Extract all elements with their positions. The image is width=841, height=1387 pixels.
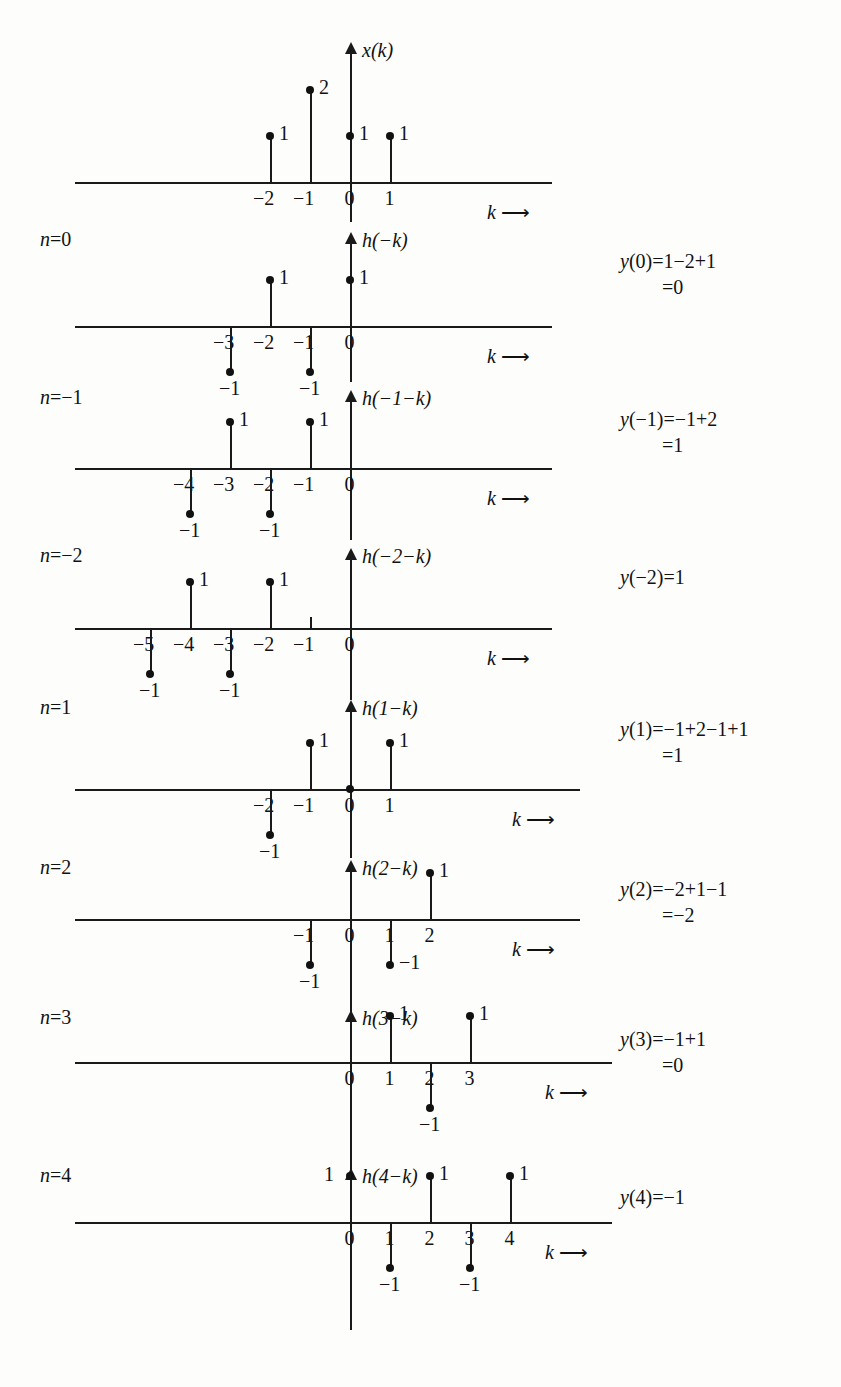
stem-n1-1 — [390, 743, 392, 789]
signal-label-n4: h(4−k) — [362, 1165, 418, 1188]
tick-label-n4-4: 4 — [505, 1228, 515, 1248]
stem-point-n0--2 — [266, 276, 274, 284]
value-label-n3-2: −1 — [419, 1114, 440, 1134]
n-label-nm2: n=−2 — [40, 544, 83, 567]
stem-n3-3 — [470, 1016, 472, 1062]
stem-x--2 — [270, 136, 272, 182]
value-label-n4-0: 1 — [324, 1164, 334, 1184]
k-axis-line-n1 — [75, 789, 580, 791]
signal-label-nm2: h(−2−k) — [362, 545, 431, 568]
stem-n2-1 — [390, 919, 392, 965]
value-label-nm1--2: −1 — [259, 520, 280, 540]
tick-label-n0-0: 0 — [345, 332, 355, 352]
stem-n3-1 — [390, 1016, 392, 1062]
tick-label-n3-0: 0 — [345, 1068, 355, 1088]
signal-label-n2: h(2−k) — [362, 857, 418, 880]
value-label-n3-1: 1 — [399, 1003, 409, 1023]
value-label-n2-1: −1 — [399, 952, 420, 972]
stem-point-n3-1 — [386, 1012, 394, 1020]
stem-nm2--5 — [150, 628, 152, 674]
stem-n2-2 — [430, 873, 432, 919]
stem-point-nm2--2 — [266, 578, 274, 586]
tick-label-nm2--2: −2 — [253, 634, 274, 654]
k-axis-line-nm2 — [75, 628, 552, 630]
signal-label-n1: h(1−k) — [362, 697, 418, 720]
tick-label-nm1--1: −1 — [293, 474, 314, 494]
tick-label-n1-1: 1 — [385, 795, 395, 815]
result-line1-n3: y(3)=−1+1 — [620, 1028, 706, 1051]
value-label-n1-1: 1 — [399, 730, 409, 750]
tick-label-nm2-0: 0 — [345, 634, 355, 654]
tick-label-n2-2: 2 — [425, 925, 435, 945]
stem-point-n3-2 — [426, 1104, 434, 1112]
n-label-n4: n=4 — [40, 1164, 71, 1187]
n-label-n1: n=1 — [40, 696, 71, 719]
value-label-n0-0: 1 — [359, 267, 369, 287]
tick-label-n4-0: 0 — [345, 1228, 355, 1248]
result-line1-n1: y(1)=−1+2−1+1 — [620, 718, 749, 741]
stem-point-n3-3 — [466, 1012, 474, 1020]
k-axis-label-n3: k ⟶ — [545, 1080, 588, 1104]
stem-n0-0 — [350, 280, 352, 326]
k-axis-label-x: k ⟶ — [487, 200, 530, 224]
value-label-n4-1: −1 — [379, 1274, 400, 1294]
value-label-nm1--1: 1 — [319, 409, 329, 429]
stem-point-n2--1 — [306, 961, 314, 969]
stem-n4-4 — [510, 1176, 512, 1222]
value-label-n0--2: 1 — [279, 267, 289, 287]
result-line2-nm1: =1 — [662, 434, 683, 457]
tick-label-n1-0: 0 — [345, 795, 355, 815]
tick-label-nm2--1: −1 — [293, 634, 314, 654]
k-axis-line-n0 — [75, 326, 552, 328]
stem-x--1 — [310, 90, 312, 182]
value-label-x-1: 1 — [399, 123, 409, 143]
n-label-n3: n=3 — [40, 1006, 71, 1029]
tick-label-n0--2: −2 — [253, 332, 274, 352]
signal-label-x: x(k) — [362, 39, 393, 62]
stem-n4-3 — [470, 1222, 472, 1268]
amplitude-axis-arrow-n3 — [345, 1010, 357, 1022]
stem-point-nm1--1 — [306, 418, 314, 426]
value-label-nm2--4: 1 — [199, 569, 209, 589]
tick-label-nm1--3: −3 — [213, 474, 234, 494]
result-line2-n0: =0 — [662, 276, 683, 299]
stem-nm1--1 — [310, 422, 312, 468]
amplitude-axis-arrow-x — [345, 42, 357, 54]
amplitude-axis-arrow-nm2 — [345, 548, 357, 560]
k-axis-line-n4 — [75, 1222, 612, 1224]
amplitude-axis-nm2 — [350, 558, 352, 700]
stem-n0--2 — [270, 280, 272, 326]
stem-point-nm2--3 — [226, 670, 234, 678]
stem-n0--3 — [230, 326, 232, 372]
amplitude-axis-arrow-n0 — [345, 232, 357, 244]
amplitude-axis-arrow-nm1 — [345, 390, 357, 402]
value-label-n2--1: −1 — [299, 971, 320, 991]
tick-label-n4-2: 2 — [425, 1228, 435, 1248]
stem-n3-2 — [430, 1062, 432, 1108]
value-label-n0--3: −1 — [219, 378, 240, 398]
value-label-x--2: 1 — [279, 123, 289, 143]
value-label-n1--2: −1 — [259, 841, 280, 861]
value-label-nm2--2: 1 — [279, 569, 289, 589]
stem-nm1--2 — [270, 468, 272, 514]
k-axis-line-n3 — [75, 1062, 612, 1064]
stem-point-n4-0 — [346, 1172, 354, 1180]
tick-label-x--1: −1 — [293, 188, 314, 208]
stem-n2--1 — [310, 919, 312, 965]
value-label-nm1--4: −1 — [179, 520, 200, 540]
value-label-n4-2: 1 — [439, 1163, 449, 1183]
k-axis-line-nm1 — [75, 468, 552, 470]
n-label-nm1: n=−1 — [40, 386, 83, 409]
stem-n4-2 — [430, 1176, 432, 1222]
stem-point-n1--2 — [266, 831, 274, 839]
value-label-nm1--3: 1 — [239, 409, 249, 429]
stem-point-nm1--4 — [186, 510, 194, 518]
tick-label-x-0: 0 — [345, 188, 355, 208]
stem-point-n4-4 — [506, 1172, 514, 1180]
stem-x-0 — [350, 136, 352, 182]
result-line1-n2: y(2)=−2+1−1 — [620, 878, 727, 901]
result-line2-n2: =−2 — [662, 904, 695, 927]
value-label-n3-3: 1 — [479, 1003, 489, 1023]
stem-point-n1--1 — [306, 739, 314, 747]
amplitude-axis-arrow-n1 — [345, 700, 357, 712]
